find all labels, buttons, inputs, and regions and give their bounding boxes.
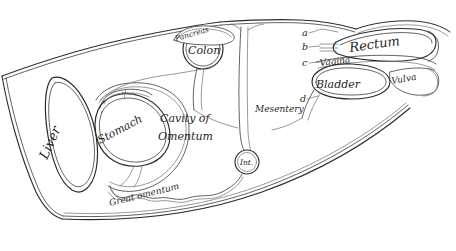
label-cavity-of-omentum-line1: Cavity of [160, 112, 211, 125]
label-colon: Colon [188, 44, 220, 57]
label-intestine: Int. [239, 158, 253, 167]
colon-stalk [193, 68, 204, 110]
key-letter-a: a [302, 27, 308, 38]
label-cavity-of-omentum-line2: Omentum [158, 130, 213, 143]
bladder-organ [302, 64, 390, 120]
anatomical-diagram: Liver Stomach Colon Pancreas [0, 0, 456, 251]
label-bladder: Bladder [315, 78, 361, 91]
key-letter-c: c [302, 57, 308, 68]
key-letter-d: d [300, 93, 306, 104]
mesentery-structure [230, 24, 264, 153]
key-letter-b: b [302, 41, 308, 52]
diagram-canvas: Liver Stomach Colon Pancreas [0, 0, 456, 251]
label-mesentery: Mesentery [254, 104, 305, 114]
